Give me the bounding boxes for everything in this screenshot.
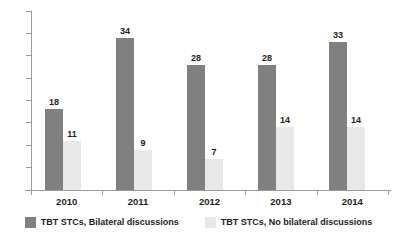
x-category-label-2010: 2010 — [56, 196, 77, 207]
bar-bilateral-2014[interactable]: 33 — [329, 42, 347, 190]
x-category-label-2011: 2011 — [128, 196, 149, 207]
bar-value-label: 14 — [351, 116, 361, 125]
x-tick-mark — [317, 190, 318, 195]
bar-value-label: 28 — [191, 54, 201, 63]
legend-swatch-icon — [205, 217, 216, 228]
bar-bilateral-2010[interactable]: 18 — [45, 109, 63, 190]
bar-no-bilateral-2010[interactable]: 11 — [63, 141, 81, 190]
bar-no-bilateral-2013[interactable]: 14 — [276, 127, 294, 190]
legend-swatch-icon — [25, 217, 36, 228]
x-tick-mark — [245, 190, 246, 195]
bar-value-label: 28 — [262, 54, 272, 63]
bar-value-label: 14 — [280, 116, 290, 125]
legend-item-no-bilateral[interactable]: TBT STCs, No bilateral discussions — [205, 217, 373, 228]
x-tick-mark — [31, 190, 32, 195]
bar-group-2012: 28 7 — [187, 11, 223, 190]
x-tick-mark — [102, 190, 103, 195]
bar-value-label: 34 — [120, 27, 130, 36]
x-category-label-2014: 2014 — [342, 196, 363, 207]
bar-value-label: 33 — [333, 31, 343, 40]
bar-group-2010: 18 11 — [45, 11, 81, 190]
bar-chart: 4035302520151050 18 11 34 9 28 7 — [0, 0, 397, 238]
bar-group-2014: 33 14 — [329, 11, 365, 190]
x-category-label-2013: 2013 — [270, 196, 291, 207]
x-axis-line — [25, 190, 391, 191]
bar-no-bilateral-2014[interactable]: 14 — [347, 127, 365, 190]
plot-area: 18 11 34 9 28 7 28 — [31, 11, 388, 190]
bar-value-label: 11 — [67, 130, 77, 139]
bar-bilateral-2013[interactable]: 28 — [258, 65, 276, 190]
bar-value-label: 18 — [49, 98, 59, 107]
bar-bilateral-2012[interactable]: 28 — [187, 65, 205, 190]
bar-group-2013: 28 14 — [258, 11, 294, 190]
x-category-label-2012: 2012 — [199, 196, 220, 207]
bar-bilateral-2011[interactable]: 34 — [116, 38, 134, 190]
legend-label: TBT STCs, Bilateral discussions — [41, 217, 179, 228]
x-tick-mark — [174, 190, 175, 195]
x-tick-mark — [388, 190, 389, 195]
bar-group-2011: 34 9 — [116, 11, 152, 190]
bar-value-label: 9 — [140, 139, 145, 148]
bar-no-bilateral-2012[interactable]: 7 — [205, 159, 223, 190]
bar-no-bilateral-2011[interactable]: 9 — [134, 150, 152, 190]
bar-value-label: 7 — [211, 148, 216, 157]
legend-label: TBT STCs, No bilateral discussions — [221, 217, 373, 228]
legend-item-bilateral[interactable]: TBT STCs, Bilateral discussions — [25, 217, 179, 228]
chart-legend: TBT STCs, Bilateral discussions TBT STCs… — [0, 217, 397, 228]
